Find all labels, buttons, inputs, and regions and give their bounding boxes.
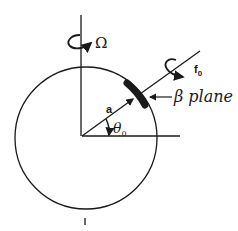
- planet-rotation-icon: [68, 35, 91, 48]
- diagram-canvas: Ω f0 β plane a θ0: [0, 0, 238, 231]
- f0-label: f0: [194, 63, 203, 78]
- theta0-label: θ0: [113, 120, 127, 138]
- beta-plane-label: β plane: [173, 87, 233, 106]
- latitude-arc: [106, 119, 109, 135]
- omega-label: Ω: [95, 34, 107, 52]
- radius-label: a: [106, 103, 113, 115]
